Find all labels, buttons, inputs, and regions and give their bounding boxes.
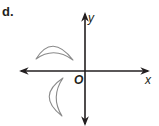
x-axis-label: x	[144, 73, 152, 87]
crescent-lower-shape	[49, 78, 63, 116]
coordinate-plane: y x O	[0, 0, 159, 126]
origin-label: O	[74, 73, 84, 87]
y-axis-label: y	[87, 11, 95, 25]
crescent-upper-shape	[36, 46, 73, 60]
